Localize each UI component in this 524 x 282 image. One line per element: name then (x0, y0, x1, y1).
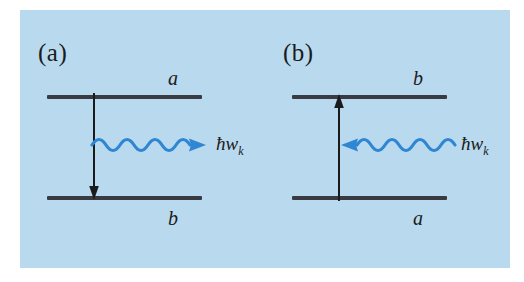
hbar-symbol: ħ (216, 133, 226, 154)
mode-subscript: k (238, 144, 243, 158)
photon-energy-label: ħwk (216, 134, 244, 157)
figure-background-panel: (a) a b ħwk (20, 10, 510, 268)
photon-wave-right-icon (90, 130, 214, 160)
panel-tag-b: (b) (283, 40, 314, 65)
energy-level-upper (292, 95, 447, 99)
state-label-lower: a (413, 208, 423, 228)
energy-level-lower (292, 196, 447, 200)
energy-level-upper (47, 95, 202, 99)
photon-energy-label: ħwk (461, 134, 489, 157)
omega-symbol: w (226, 133, 239, 154)
mode-subscript: k (483, 144, 488, 158)
state-label-lower: b (168, 208, 178, 228)
photon-wave-left-icon (335, 130, 459, 160)
hbar-symbol: ħ (461, 133, 471, 154)
panel-emission: (a) a b ħwk (20, 10, 265, 268)
panel-absorption: (b) b a ħwk (265, 10, 510, 268)
panel-tag-a: (a) (38, 40, 67, 65)
state-label-upper: b (413, 68, 423, 88)
energy-level-lower (47, 196, 202, 200)
figure-root: (a) a b ħwk (0, 0, 524, 282)
omega-symbol: w (471, 133, 484, 154)
state-label-upper: a (168, 68, 178, 88)
